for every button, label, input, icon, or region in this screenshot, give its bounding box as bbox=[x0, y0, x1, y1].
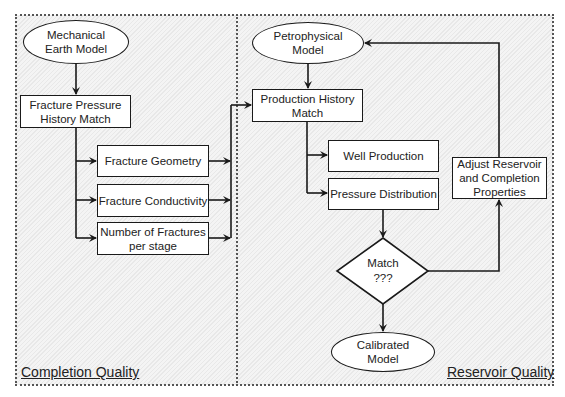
node-text: per stage bbox=[100, 239, 205, 253]
node-text: Fracture Pressure bbox=[29, 98, 121, 112]
node-text: Model bbox=[273, 43, 342, 57]
node-text: Match bbox=[261, 106, 355, 120]
node-text: Properties bbox=[457, 185, 541, 199]
node-production-history-match: Production HistoryMatch bbox=[252, 89, 363, 122]
node-pressure-distribution: Pressure Distribution bbox=[328, 178, 439, 210]
node-well-production: Well Production bbox=[328, 140, 439, 172]
node-adjust-properties: Adjust Reservoirand CompletionProperties bbox=[452, 157, 547, 199]
label-reservoir-quality: Reservoir Quality bbox=[447, 364, 554, 380]
node-text: History Match bbox=[29, 112, 121, 126]
node-calibrated-model: CalibratedModel bbox=[331, 332, 435, 372]
node-text: Match bbox=[343, 256, 423, 271]
node-text: Production History bbox=[261, 92, 355, 106]
node-fracture-conductivity: Fracture Conductivity bbox=[97, 184, 209, 217]
node-text: Well Production bbox=[343, 149, 423, 163]
node-number-of-fractures: Number of Fracturesper stage bbox=[97, 222, 209, 255]
node-mechanical-earth-model: MechanicalEarth Model bbox=[23, 20, 129, 64]
node-text: Adjust Reservoir bbox=[457, 157, 541, 171]
node-text: Fracture Conductivity bbox=[99, 194, 208, 208]
label-completion-quality: Completion Quality bbox=[21, 364, 139, 380]
node-text: Number of Fractures bbox=[100, 225, 205, 239]
node-match-decision: Match ??? bbox=[343, 256, 423, 286]
edge-match-to-adjust bbox=[428, 200, 499, 271]
node-text: Earth Model bbox=[45, 42, 107, 56]
node-text: Calibrated bbox=[357, 338, 409, 352]
node-text: Pressure Distribution bbox=[330, 187, 437, 201]
node-text: Petrophysical bbox=[273, 29, 342, 43]
node-text: ??? bbox=[343, 271, 423, 286]
node-text: Model bbox=[357, 352, 409, 366]
node-text: Fracture Geometry bbox=[105, 154, 202, 168]
node-text: Mechanical bbox=[45, 28, 107, 42]
node-fracture-pressure-history-match: Fracture PressureHistory Match bbox=[20, 95, 131, 128]
node-petrophysical-model: PetrophysicalModel bbox=[252, 22, 364, 64]
flowchart-canvas: MechanicalEarth Model Fracture PressureH… bbox=[0, 0, 565, 397]
node-text: and Completion bbox=[457, 171, 541, 185]
node-fracture-geometry: Fracture Geometry bbox=[97, 145, 209, 177]
